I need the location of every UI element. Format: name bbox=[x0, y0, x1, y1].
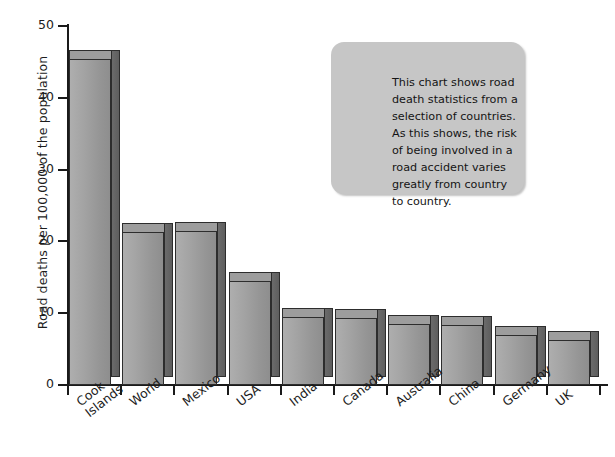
y-tick-label: 10 bbox=[38, 304, 54, 319]
bar-front-face bbox=[69, 59, 111, 385]
x-tick-mark bbox=[386, 386, 388, 395]
bar-side-face bbox=[111, 50, 120, 377]
bar-uk bbox=[548, 331, 599, 385]
bar-cook-islands bbox=[69, 50, 120, 385]
x-tick-mark bbox=[546, 386, 548, 395]
y-tick-mark bbox=[58, 97, 67, 99]
x-tick-label-line: USA bbox=[234, 382, 263, 409]
bar-world bbox=[122, 223, 173, 385]
x-tick-mark bbox=[333, 386, 335, 395]
bar-china bbox=[441, 316, 492, 385]
x-tick-mark bbox=[493, 386, 495, 395]
x-tick-mark bbox=[227, 386, 229, 395]
x-tick-mark bbox=[67, 386, 69, 395]
y-tick-label: 20 bbox=[38, 232, 54, 247]
y-tick-mark bbox=[58, 240, 67, 242]
bar-side-face bbox=[590, 331, 599, 377]
bar-front-face bbox=[548, 340, 590, 385]
bar-front-face bbox=[229, 281, 271, 385]
bar-mexico bbox=[175, 222, 226, 385]
bar-side-face bbox=[217, 222, 226, 377]
y-tick-mark bbox=[58, 384, 67, 386]
bar-side-face bbox=[377, 309, 386, 377]
bar-side-face bbox=[483, 316, 492, 377]
x-tick-label-line: UK bbox=[553, 387, 575, 409]
y-tick-mark bbox=[58, 169, 67, 171]
x-tick-mark bbox=[120, 386, 122, 395]
y-tick-mark bbox=[58, 25, 67, 27]
y-tick-label: 0 bbox=[46, 376, 54, 391]
y-tick-label: 50 bbox=[38, 17, 54, 32]
bar-front-face bbox=[175, 231, 217, 385]
y-tick-label: 30 bbox=[38, 161, 54, 176]
bar-front-face bbox=[441, 325, 483, 385]
bar-india bbox=[282, 308, 333, 385]
x-tick-label-usa: USA bbox=[234, 382, 263, 409]
description-callout-text: This chart shows road death statistics f… bbox=[392, 74, 518, 210]
bar-front-face bbox=[122, 232, 164, 385]
x-tick-mark-end bbox=[599, 386, 601, 395]
bar-side-face bbox=[324, 308, 333, 377]
y-tick-label: 40 bbox=[38, 89, 54, 104]
x-tick-mark bbox=[173, 386, 175, 395]
bar-side-face bbox=[271, 272, 280, 377]
bar-side-face bbox=[164, 223, 173, 377]
bar-usa bbox=[229, 272, 280, 385]
x-tick-mark bbox=[280, 386, 282, 395]
x-tick-mark bbox=[439, 386, 441, 395]
y-tick-mark bbox=[58, 312, 67, 314]
bar-front-face bbox=[282, 317, 324, 385]
description-callout: This chart shows road death statistics f… bbox=[331, 42, 524, 194]
x-tick-label-uk: UK bbox=[553, 387, 575, 409]
road-deaths-bar-chart: Road deaths per 100,000 of the populatio… bbox=[0, 0, 615, 457]
